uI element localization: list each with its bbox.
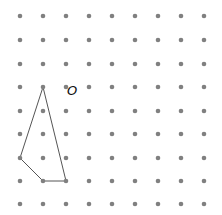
point-label-o: O (67, 84, 77, 97)
grid-dot (64, 156, 69, 161)
grid-dot (202, 156, 207, 161)
grid-dot (156, 38, 161, 43)
grid-dot (64, 132, 69, 137)
grid-dot (133, 38, 138, 43)
grid-dot (18, 85, 23, 90)
grid-dot (64, 38, 69, 43)
grid-dot (41, 62, 46, 67)
grid-dot (64, 109, 69, 114)
grid-dot (110, 38, 115, 43)
grid-dot (202, 109, 207, 114)
grid-dot (202, 38, 207, 43)
grid-dot (64, 202, 69, 207)
grid-dot (18, 156, 23, 161)
grid-dot (18, 14, 23, 19)
grid-dot (41, 179, 46, 184)
grid-dot (156, 156, 161, 161)
grid-dot (133, 14, 138, 19)
grid-dot (156, 85, 161, 90)
grid-dot (64, 179, 69, 184)
grid-dot (156, 62, 161, 67)
grid-dot (87, 85, 92, 90)
grid-dot (110, 156, 115, 161)
grid-dot (87, 202, 92, 207)
grid-dot (133, 85, 138, 90)
grid-dot (179, 14, 184, 19)
grid-dot (87, 62, 92, 67)
grid-dot (87, 38, 92, 43)
grid-canvas (0, 0, 222, 215)
grid-dot (156, 109, 161, 114)
grid-dot (133, 179, 138, 184)
grid-dot (156, 14, 161, 19)
grid-dot (110, 85, 115, 90)
grid-dot (202, 179, 207, 184)
grid-dot (133, 109, 138, 114)
grid-dot (41, 14, 46, 19)
grid-dot (179, 38, 184, 43)
grid-dot (202, 62, 207, 67)
grid-dot (87, 179, 92, 184)
grid-dot (87, 109, 92, 114)
grid-dot (179, 179, 184, 184)
grid-dot (87, 156, 92, 161)
grid-dot (64, 62, 69, 67)
grid-dot (87, 132, 92, 137)
grid-dot (179, 109, 184, 114)
grid-dot (179, 85, 184, 90)
grid-dot (202, 85, 207, 90)
grid-dot (156, 179, 161, 184)
grid-dot (179, 62, 184, 67)
grid-dot (64, 14, 69, 19)
grid-dot (202, 14, 207, 19)
grid-dot (110, 202, 115, 207)
grid-dot (133, 202, 138, 207)
grid-dot (133, 62, 138, 67)
grid-dot (41, 202, 46, 207)
grid-dot (18, 62, 23, 67)
grid-dot (41, 156, 46, 161)
grid-dot (179, 132, 184, 137)
grid-dot (110, 14, 115, 19)
grid-dot (202, 132, 207, 137)
grid-dot (202, 202, 207, 207)
grid-dot (41, 132, 46, 137)
grid-dot (18, 38, 23, 43)
grid-dot (18, 132, 23, 137)
grid-dot (18, 179, 23, 184)
grid-dot (179, 156, 184, 161)
grid-dot (87, 14, 92, 19)
grid-dot (110, 179, 115, 184)
dot-grid-diagram: O (0, 0, 222, 215)
grid-dot (110, 132, 115, 137)
grid-dot (18, 202, 23, 207)
grid-dot (41, 38, 46, 43)
grid-dot (41, 85, 46, 90)
grid-dot (133, 156, 138, 161)
grid-dot (110, 109, 115, 114)
grid-dot (179, 202, 184, 207)
grid-dot (18, 109, 23, 114)
grid-dot (156, 132, 161, 137)
grid-dot (133, 132, 138, 137)
grid-dot (156, 202, 161, 207)
grid-dot (110, 62, 115, 67)
grid-dot (41, 109, 46, 114)
